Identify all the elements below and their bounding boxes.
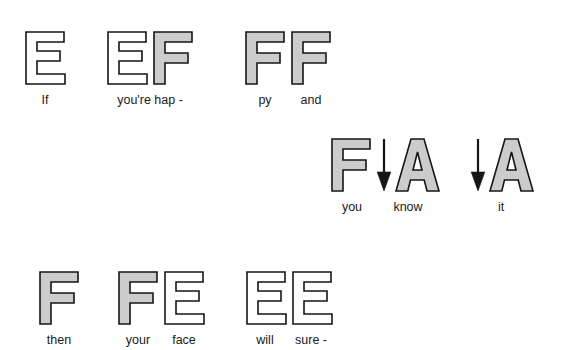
lyric-syllable: If: [22, 93, 68, 107]
letter-e-outline[interactable]: [104, 29, 150, 87]
letter-row: [328, 132, 440, 194]
lyric-syllable: will: [243, 333, 287, 347]
letter-row: [243, 265, 335, 327]
lyric-syllable: you: [328, 200, 376, 214]
letter-row: [22, 25, 68, 87]
letter-f-filled[interactable]: [150, 29, 196, 87]
bell-group[interactable]: If: [22, 25, 68, 107]
letter-a-filled[interactable]: [488, 136, 534, 194]
bell-group[interactable]: your face: [115, 265, 207, 347]
letter-row: [104, 25, 196, 87]
letter-e-outline[interactable]: [161, 269, 207, 327]
lyric-row: will sure -: [243, 333, 335, 347]
bell-group[interactable]: you're hap -: [104, 25, 196, 107]
letter-row: [115, 265, 207, 327]
lyric-row: your face: [115, 333, 207, 347]
lyric-row: If: [22, 93, 68, 107]
lyric-syllable: know: [376, 200, 440, 214]
letter-row: [36, 265, 82, 327]
diagram-canvas: If you're hap -: [0, 0, 574, 350]
letter-f-filled[interactable]: [36, 269, 82, 327]
letter-e-outline[interactable]: [243, 269, 289, 327]
letter-a-filled[interactable]: [394, 136, 440, 194]
lyric-row: it: [468, 200, 534, 214]
letter-f-filled[interactable]: [242, 29, 288, 87]
bell-group[interactable]: you know: [328, 132, 440, 214]
letter-f-filled[interactable]: [288, 29, 334, 87]
lyric-syllable: sure -: [287, 333, 335, 347]
bell-group[interactable]: will sure -: [243, 265, 335, 347]
letter-row: [242, 25, 334, 87]
letter-f-filled[interactable]: [115, 269, 161, 327]
bell-group[interactable]: it: [468, 132, 534, 214]
lyric-row: then: [36, 333, 82, 347]
lyric-syllable: face: [161, 333, 207, 347]
bell-group[interactable]: py and: [242, 25, 334, 107]
lyric-syllable: then: [36, 333, 82, 347]
lyric-row: you're hap -: [104, 93, 196, 107]
lyric-syllable: your: [115, 333, 161, 347]
letter-e-outline[interactable]: [289, 269, 335, 327]
letter-e-outline[interactable]: [22, 29, 68, 87]
lyric-row: py and: [242, 93, 334, 107]
down-arrow-icon[interactable]: [468, 136, 488, 194]
down-arrow-icon[interactable]: [374, 136, 394, 194]
lyric-syllable: it: [468, 200, 534, 214]
bell-group[interactable]: then: [36, 265, 82, 347]
lyric-syllable: and: [288, 93, 334, 107]
lyric-row: you know: [328, 200, 440, 214]
letter-f-filled[interactable]: [328, 136, 374, 194]
lyric-syllable: py: [242, 93, 288, 107]
lyric-syllable: you're hap -: [104, 93, 196, 107]
letter-row: [468, 132, 534, 194]
